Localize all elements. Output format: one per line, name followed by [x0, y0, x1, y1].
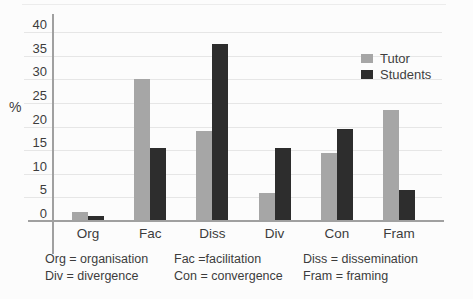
x-category-label-fac: Fac [118, 226, 182, 241]
y-tick-label: 40 [12, 18, 47, 32]
x-category-label-con: Con [305, 226, 369, 241]
y-tick-label: 15 [12, 136, 47, 150]
y-axis-label: % [9, 99, 21, 115]
bar-students-diss [212, 44, 228, 221]
abbreviation-key-column-1: Org = organisation Div = divergence [45, 251, 148, 285]
x-category-label-org: Org [56, 226, 120, 241]
gridline [24, 103, 442, 104]
key-diss: Diss = dissemination [303, 251, 418, 268]
x-category-label-diss: Diss [180, 226, 244, 241]
key-fram: Fram = framing [303, 268, 418, 285]
y-tick-label: 30 [12, 65, 47, 79]
key-org: Org = organisation [45, 251, 148, 268]
y-tick-label: 35 [12, 42, 47, 56]
legend-label-students: Students [380, 67, 431, 82]
x-category-label-fram: Fram [367, 226, 431, 241]
tutor-color-swatch [361, 54, 373, 63]
students-color-swatch [361, 70, 373, 79]
bar-students-fac [150, 148, 166, 221]
bar-chart-figure: 0510152025303540 % OrgFacDissDivConFram … [0, 0, 473, 299]
gridline [24, 32, 442, 33]
y-tick-label: 5 [12, 183, 47, 197]
bar-students-fram [399, 190, 415, 221]
x-axis-line [28, 220, 444, 222]
x-category-label-div: Div [243, 226, 307, 241]
plot-top-border [22, 4, 446, 5]
bar-tutor-fram [383, 110, 399, 221]
key-div: Div = divergence [45, 268, 148, 285]
bar-students-con [337, 129, 353, 221]
gridline [24, 127, 442, 128]
bar-tutor-div [259, 193, 275, 221]
legend-item-tutor: Tutor [361, 51, 431, 65]
bar-tutor-diss [196, 131, 212, 221]
key-fac: Fac =facilitation [174, 251, 283, 268]
y-tick-label: 0 [12, 207, 47, 221]
y-tick-label: 10 [12, 160, 47, 174]
abbreviation-key-column-2: Fac =facilitation Con = convergence [174, 251, 283, 285]
legend: Tutor Students [361, 51, 431, 83]
gridline [24, 150, 442, 151]
abbreviation-key-column-3: Diss = dissemination Fram = framing [303, 251, 418, 285]
bar-tutor-fac [134, 79, 150, 221]
bar-tutor-con [321, 153, 337, 221]
y-axis-line [52, 14, 54, 254]
legend-label-tutor: Tutor [380, 51, 410, 66]
key-con: Con = convergence [174, 268, 283, 285]
legend-item-students: Students [361, 67, 431, 81]
bar-students-div [275, 148, 291, 221]
gridline [24, 174, 442, 175]
gridline [24, 197, 442, 198]
